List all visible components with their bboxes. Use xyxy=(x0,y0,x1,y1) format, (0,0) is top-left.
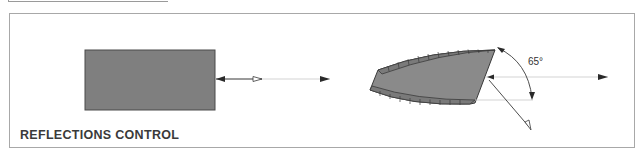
arc-arrowhead-top xyxy=(497,47,505,53)
deflected-arrowhead-hollow xyxy=(525,120,531,130)
incoming-arrowhead-left xyxy=(320,76,330,82)
surface-arrowhead-right xyxy=(487,75,494,80)
incoming-arrowhead-right xyxy=(598,74,608,80)
angled-panel xyxy=(370,50,495,106)
flat-panel xyxy=(85,50,215,110)
figure-caption: REFLECTIONS CONTROL xyxy=(20,128,179,142)
deflected-ray xyxy=(489,80,530,128)
angle-label: 65° xyxy=(528,56,543,67)
angle-arc xyxy=(498,48,532,98)
arc-arrowhead-bottom xyxy=(529,92,535,100)
reflected-arrowhead-left xyxy=(216,76,225,82)
outgoing-arrowhead-hollow xyxy=(253,77,262,82)
